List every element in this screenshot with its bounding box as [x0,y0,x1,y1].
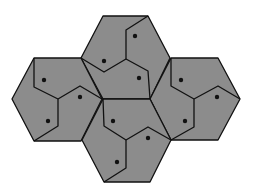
region-dot [46,119,50,123]
region-dot [133,34,137,38]
region-dot [183,119,187,123]
hexagon-tiling-diagram [0,0,255,196]
region-dot [115,160,119,164]
region-dot [179,78,183,82]
region-dot [102,59,106,63]
region-dot [42,78,46,82]
region-dot [215,95,219,99]
region-dot [146,136,150,140]
region-dot [78,95,82,99]
region-dot [137,76,141,80]
region-dot [111,119,115,123]
